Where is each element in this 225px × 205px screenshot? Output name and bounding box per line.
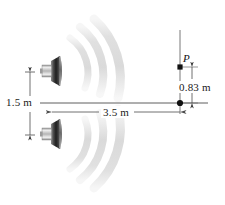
speaker-top-cone — [51, 56, 60, 86]
speaker-bottom-cone — [51, 119, 60, 149]
physics-figure: 1.5 m 3.5 m 0.83 m P — [0, 0, 225, 205]
wave-arc-bottom-1 — [70, 119, 88, 169]
speaker-top-magnet — [42, 65, 52, 77]
offset-label: 0.83 m — [178, 81, 212, 93]
wave-fronts-top — [70, 19, 120, 98]
speaker-bottom-rim — [59, 119, 61, 149]
figure-canvas — [0, 0, 225, 205]
speaker-bottom-pole — [40, 132, 43, 137]
speaker-bottom — [40, 119, 62, 149]
speaker-top — [40, 56, 62, 86]
center-point-marker — [177, 100, 183, 106]
separation-label: 1.5 m — [6, 96, 32, 108]
speaker-top-pole — [40, 69, 43, 74]
wave-fronts-bottom — [70, 109, 120, 188]
speaker-bottom-magnet — [42, 128, 52, 140]
speaker-top-rim — [59, 56, 61, 86]
point-p-marker — [177, 64, 182, 69]
wave-arc-top-1 — [70, 38, 88, 88]
point-p-label: P — [183, 52, 190, 64]
distance-label: 3.5 m — [101, 106, 131, 118]
